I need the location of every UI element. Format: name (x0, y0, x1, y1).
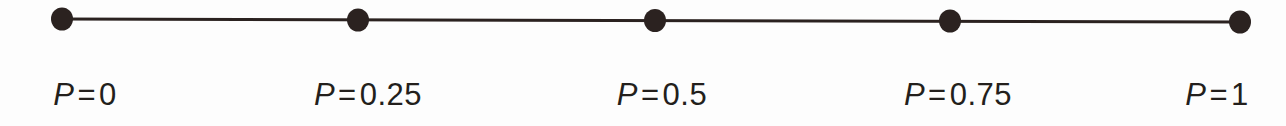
tick-label-relation: = (335, 77, 360, 112)
tick-label-variable: P (617, 77, 638, 112)
tick-label-p-0: P=0 (53, 78, 117, 112)
tick-label-variable: P (53, 77, 74, 112)
tick-label-relation: = (638, 77, 663, 112)
tick-label-variable: P (314, 77, 335, 112)
tick-label-p-025: P=0.25 (314, 78, 422, 112)
tick-label-value: 1 (1231, 77, 1249, 112)
tick-label-p-1: P=1 (1185, 78, 1249, 112)
number-line-point-075 (939, 10, 961, 33)
tick-label-value: 0.25 (360, 77, 422, 112)
probability-number-line-figure: P=0 P=0.25 P=0.5 P=0.75 P=1 (0, 0, 1286, 126)
tick-label-variable: P (904, 77, 925, 112)
number-line-point-05 (644, 9, 666, 32)
tick-label-relation: = (925, 77, 950, 112)
tick-label-variable: P (1185, 77, 1206, 112)
number-line-point-0 (51, 8, 73, 31)
number-line-point-025 (347, 9, 369, 32)
tick-label-relation: = (74, 77, 99, 112)
tick-label-relation: = (1206, 77, 1231, 112)
tick-label-value: 0.5 (663, 77, 708, 112)
tick-label-value: 0.75 (950, 77, 1012, 112)
number-line-point-1 (1229, 11, 1251, 34)
tick-label-value: 0 (99, 77, 117, 112)
tick-label-p-05: P=0.5 (617, 78, 707, 112)
tick-label-p-075: P=0.75 (904, 78, 1012, 112)
